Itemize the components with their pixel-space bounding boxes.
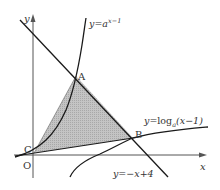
x-axis <box>14 153 207 158</box>
label-line: y=−x+4 <box>112 168 154 179</box>
svg-text:y=loga(x−1): y=loga(x−1) <box>143 115 203 129</box>
point-b-label: B <box>135 129 142 140</box>
label-exponential: y=ax−1 <box>88 17 121 29</box>
label-logarithm: y=loga(x−1) <box>143 115 203 129</box>
svg-text:y=ax−1: y=ax−1 <box>88 17 121 29</box>
y-axis-label: y <box>23 13 30 24</box>
y-axis-arrow-icon <box>31 14 36 22</box>
coordinate-diagram: y x O A B C y=ax−1 y=loga(x−1) y=−x+4 <box>0 0 220 190</box>
x-axis-label: x <box>200 161 206 172</box>
point-a-label: A <box>77 71 86 82</box>
origin-label: O <box>23 160 31 171</box>
point-c-label: C <box>24 144 32 155</box>
line-y-neg-x-plus-4 <box>20 20 168 177</box>
x-axis-arrow-icon <box>199 153 207 158</box>
